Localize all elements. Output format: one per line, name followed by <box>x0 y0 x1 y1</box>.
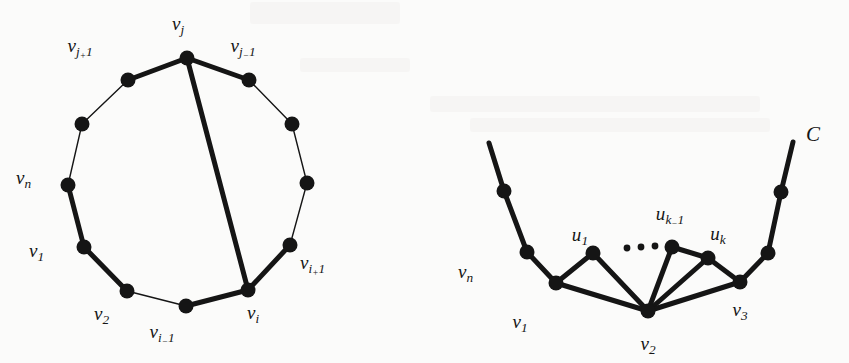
left-vertex-vj1 <box>121 73 136 88</box>
left-edge-vjm1-bend1 <box>249 80 292 124</box>
left-edge-v2-v1 <box>84 247 127 291</box>
vertex-label-v1-right: v1 <box>512 312 527 334</box>
left-vertex-vn <box>61 178 76 193</box>
ellipsis-dot-3 <box>652 243 659 250</box>
right-vertex-arcL_mid <box>520 245 535 260</box>
vertex-label-v1-left: v1 <box>29 241 44 263</box>
vertex-label-vi-minus-1: vi−1 <box>149 322 174 347</box>
left-edge-vip1-vi <box>248 245 290 290</box>
left-edge-vj1-vj <box>128 58 187 80</box>
left-vertex-bend3 <box>75 117 90 132</box>
left-vertex-v2 <box>120 284 135 299</box>
left-edge-bend2-vip1 <box>290 183 307 245</box>
right-vertex-arcL_top <box>497 184 512 199</box>
left-vertex-bend1 <box>285 117 300 132</box>
right-vertex-v1 <box>549 276 564 291</box>
vertex-label-v2-right: v2 <box>640 334 655 356</box>
right-edge-arcL_end-arcL_top <box>489 143 504 191</box>
left-edge-vn-bend3 <box>68 124 82 185</box>
vertex-label-vj-minus-1: vj−1 <box>230 36 255 61</box>
left-vertex-vj <box>180 51 195 66</box>
left-edge-vj-vi <box>187 58 248 290</box>
right-vertex-uk <box>701 251 716 266</box>
right-edge-arcL_top-arcL_mid <box>504 191 527 252</box>
vertex-label-v2-left: v2 <box>94 304 109 326</box>
right-vertex-v2 <box>641 304 656 319</box>
right-vertex-arcR_top <box>774 185 789 200</box>
right-vertex-arcR_mid <box>761 246 776 261</box>
left-vertex-vim1 <box>179 299 194 314</box>
right-vertex-ukm1 <box>665 240 680 255</box>
left-vertex-v1 <box>77 240 92 255</box>
left-edge-vim1-v2 <box>127 291 186 306</box>
ellipsis-dot-2 <box>638 244 645 251</box>
graph-figure-svg <box>0 0 849 363</box>
vertex-label-vn-right: vn <box>458 262 473 284</box>
right-group <box>489 142 793 319</box>
vertex-label-vj: vj <box>172 14 184 36</box>
left-vertex-bend2 <box>300 176 315 191</box>
left-edge-v1-vn <box>68 185 84 247</box>
right-edge-arcR_top-arcR_end <box>781 142 793 192</box>
cycle-label-C: C <box>806 124 820 145</box>
figure-page: vj vj+1 vj−1 vn v1 v2 vi−1 vi vi+1 C vn … <box>0 0 849 363</box>
left-edge-vj-vjm1 <box>187 58 249 80</box>
vertex-label-u1: u1 <box>572 225 588 247</box>
left-vertex-vjm1 <box>242 73 257 88</box>
ellipsis-dot-1 <box>624 245 631 252</box>
vertex-label-uk: uk <box>710 224 726 246</box>
left-group <box>61 51 315 314</box>
vertex-label-v3-right: v3 <box>732 300 747 322</box>
left-edge-bend1-bend2 <box>292 124 307 183</box>
vertex-label-vi: vi <box>247 303 259 325</box>
vertex-label-vj-plus-1: vj+1 <box>67 36 92 61</box>
right-vertex-v3 <box>733 275 748 290</box>
right-vertex-u1 <box>586 246 601 261</box>
right-edge-arcR_mid-arcR_top <box>768 192 781 253</box>
left-vertex-vi <box>241 283 256 298</box>
vertex-label-vi-plus-1: vi+1 <box>300 253 325 278</box>
left-vertex-vip1 <box>283 238 298 253</box>
left-edge-vi-vim1 <box>186 290 248 306</box>
left-edge-bend3-vj1 <box>82 80 128 124</box>
vertex-label-uk-minus-1: uk−1 <box>656 204 684 229</box>
vertex-label-vn-left: vn <box>16 168 31 190</box>
